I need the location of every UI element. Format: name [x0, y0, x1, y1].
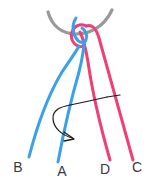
- label-a: A: [57, 163, 67, 179]
- blue-knot-curl: [73, 18, 87, 42]
- label-d: D: [100, 161, 110, 177]
- knot-diagram: B A D C: [0, 0, 152, 182]
- label-b: B: [13, 159, 22, 175]
- tissue-loop-arc: [48, 10, 112, 34]
- label-c: C: [132, 159, 142, 175]
- rotation-arrow: [53, 95, 120, 141]
